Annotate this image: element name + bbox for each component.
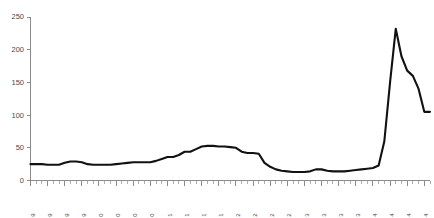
x-tick-label: Jan-24: [372, 213, 378, 217]
x-tick-label: Apr-21: [184, 213, 190, 217]
line-chart: 050100150200250 Jan-19Apr-19Jul-19Oct-19…: [0, 0, 434, 217]
x-axis: Jan-19Apr-19Jul-19Oct-19Jan-20Apr-20Jul-…: [30, 181, 430, 218]
x-tick-label: Oct-21: [218, 213, 224, 217]
y-tick-label: 250: [11, 12, 24, 21]
y-tick-label: 0: [20, 176, 24, 185]
x-tick-label: Jan-21: [167, 213, 173, 217]
y-axis: 050100150200250: [11, 12, 30, 185]
x-tick-label: Jul-23: [338, 213, 344, 217]
x-tick-label: Jul-19: [64, 213, 70, 217]
x-tick-label: Oct-19: [81, 213, 87, 217]
x-tick-label: Apr-23: [321, 213, 327, 217]
x-tick-label: Apr-20: [115, 213, 121, 217]
x-tick-label: Jan-20: [98, 213, 104, 217]
y-tick-label: 200: [11, 45, 24, 54]
x-tick-label: Oct-20: [149, 213, 155, 217]
y-tick-label: 100: [11, 111, 24, 120]
data-series: [31, 29, 431, 172]
x-tick-label: Jul-21: [201, 213, 207, 217]
x-tick-label: Apr-19: [47, 213, 53, 217]
x-tick-label: Jan-23: [304, 213, 310, 217]
x-tick-label: Oct-23: [355, 213, 361, 217]
x-tick-label: Jul-24: [406, 213, 412, 217]
x-tick-label: Apr-22: [252, 213, 258, 217]
x-tick-label: Jul-22: [269, 213, 275, 217]
series-line: [31, 29, 431, 172]
x-tick-label: Jul-20: [132, 213, 138, 217]
chart-canvas: 050100150200250 Jan-19Apr-19Jul-19Oct-19…: [0, 0, 434, 217]
x-tick-label: Oct-24: [423, 213, 429, 217]
x-tick-label: Jan-22: [235, 213, 241, 217]
x-tick-label: Apr-24: [389, 213, 395, 217]
x-tick-label: Oct-22: [286, 213, 292, 217]
y-tick-label: 50: [16, 143, 24, 152]
y-tick-label: 150: [11, 78, 24, 87]
x-tick-label: Jan-19: [30, 213, 36, 217]
